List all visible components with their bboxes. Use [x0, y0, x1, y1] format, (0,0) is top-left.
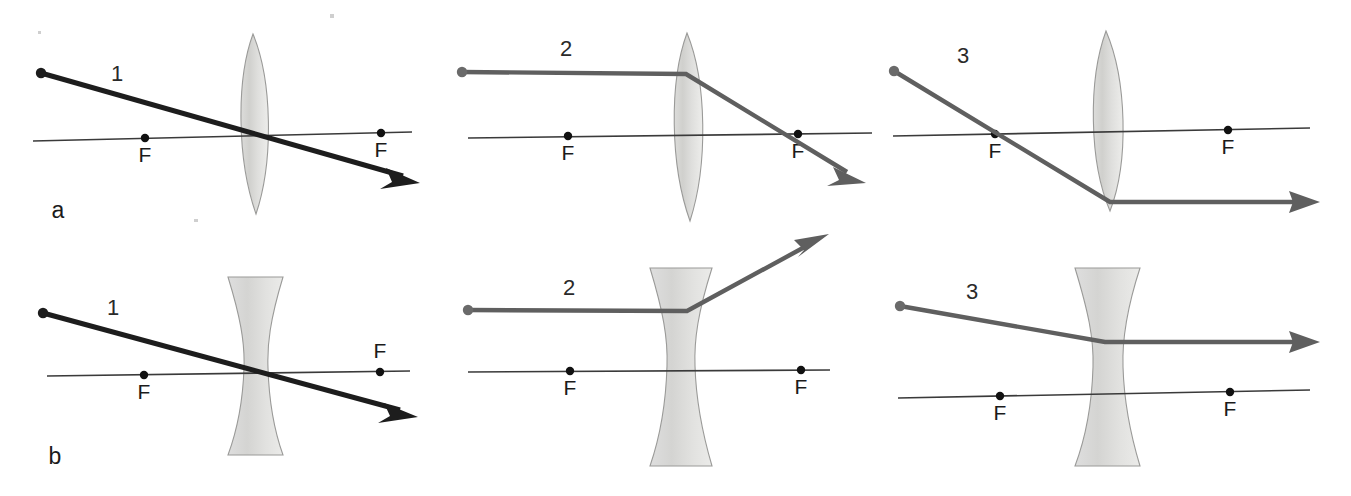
focal-point-dot-right-a2 [794, 130, 802, 138]
scan-speck-3 [38, 31, 41, 34]
focal-point-label-right-a3: F [1222, 135, 1235, 158]
ray-origin-dot-b1 [38, 308, 48, 318]
focal-point-dot-right-b1 [376, 368, 384, 376]
focal-point-dot-right-b3 [1226, 388, 1234, 396]
focal-point-dot-left-b3 [996, 392, 1004, 400]
ray-number-label-b1: 1 [107, 295, 119, 320]
ray-number-label-a1: 1 [111, 61, 123, 86]
focal-point-dot-right-a1 [377, 129, 385, 137]
ray-origin-dot-b3 [895, 301, 905, 311]
focal-point-dot-left-b2 [566, 367, 574, 375]
focal-point-label-right-a1: F [375, 138, 388, 161]
row-label-a: a [52, 197, 65, 223]
focal-point-label-left-a2: F [562, 141, 575, 164]
ray-origin-dot-a1 [36, 68, 46, 78]
focal-point-label-left-a1: F [139, 143, 152, 166]
focal-point-dot-right-b2 [797, 366, 805, 374]
focal-point-label-left-b2: F [564, 376, 577, 399]
focal-point-label-left-b3: F [994, 401, 1007, 424]
focal-point-label-right-b3: F [1224, 397, 1237, 420]
ray-origin-dot-b2 [463, 305, 473, 315]
ray-number-label-b2: 2 [563, 275, 575, 300]
row-label-b: b [49, 443, 62, 469]
focal-point-dot-left-a1 [141, 134, 149, 142]
ray-origin-dot-a3 [889, 66, 899, 76]
optics-ray-diagram-figure: F F 1 a F F 2 F F 3 [0, 0, 1351, 496]
focal-point-label-right-b2: F [795, 375, 808, 398]
ray-number-label-a3: 3 [957, 43, 969, 68]
scan-speck-1 [330, 14, 334, 18]
ray-number-label-b3: 3 [966, 279, 978, 304]
focal-point-label-right-b1: F [374, 339, 387, 362]
figure-canvas: F F 1 a F F 2 F F 3 [0, 0, 1351, 496]
ray-number-label-a2: 2 [560, 36, 572, 61]
focal-point-label-left-a3: F [989, 139, 1002, 162]
focal-point-label-left-b1: F [138, 380, 151, 403]
focal-point-dot-left-b1 [140, 371, 148, 379]
scan-speck-2 [194, 219, 198, 222]
focal-point-dot-left-a2 [564, 132, 572, 140]
ray-origin-dot-a2 [457, 67, 467, 77]
focal-point-dot-right-a3 [1224, 126, 1232, 134]
